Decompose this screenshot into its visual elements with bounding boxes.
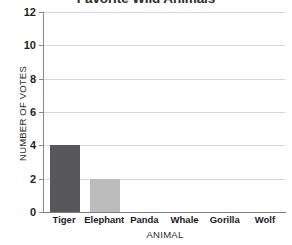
y-tick-mark bbox=[39, 212, 44, 213]
x-tick-label-gorilla: Gorilla bbox=[205, 214, 245, 225]
x-axis-line bbox=[43, 212, 286, 213]
y-tick-label: 6 bbox=[2, 106, 36, 118]
x-axis-title: ANIMAL bbox=[44, 229, 286, 240]
x-tick-label-panda: Panda bbox=[124, 214, 164, 225]
gridline bbox=[44, 112, 285, 113]
gridline bbox=[44, 79, 285, 80]
y-tick-label: 2 bbox=[2, 173, 36, 185]
y-tick-label: 10 bbox=[2, 39, 36, 51]
y-tick-mark bbox=[39, 79, 44, 80]
y-tick-mark bbox=[39, 45, 44, 46]
gridline bbox=[44, 12, 285, 13]
y-tick-mark bbox=[39, 112, 44, 113]
y-tick-mark bbox=[39, 145, 44, 146]
gridline bbox=[44, 145, 285, 146]
y-tick-label: 12 bbox=[2, 6, 36, 18]
y-tick-label: 4 bbox=[2, 139, 36, 151]
x-axis-tick-labels: TigerElephantPandaWhaleGorillaWolf bbox=[44, 214, 285, 230]
x-tick-label-wolf: Wolf bbox=[245, 214, 285, 225]
y-tick-mark bbox=[39, 179, 44, 180]
chart-title: Favorite Wild Animals bbox=[0, 0, 292, 6]
y-axis-tick-labels: 024681012 bbox=[0, 0, 36, 245]
bar-elephant bbox=[90, 179, 120, 212]
x-tick-label-elephant: Elephant bbox=[84, 214, 124, 225]
x-tick-label-whale: Whale bbox=[165, 214, 205, 225]
plot-area bbox=[44, 12, 285, 212]
gridline bbox=[44, 179, 285, 180]
x-tick-label-tiger: Tiger bbox=[44, 214, 84, 225]
y-tick-mark bbox=[39, 12, 44, 13]
bar-tiger bbox=[50, 145, 80, 212]
y-tick-label: 0 bbox=[2, 206, 36, 218]
gridline bbox=[44, 45, 285, 46]
bar-chart: Favorite Wild Animals NUMBER OF VOTES 02… bbox=[0, 0, 292, 245]
y-tick-label: 8 bbox=[2, 73, 36, 85]
